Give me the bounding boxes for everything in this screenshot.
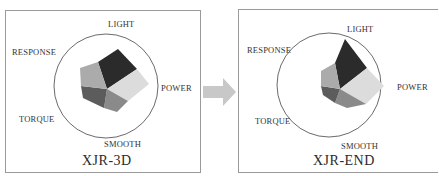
panel-xjr-end: LIGHT RESPONSE POWER TORQUE SMOOTH XJR-E… <box>238 9 438 173</box>
model-name-xjr-3d: XJR-3D <box>82 153 132 169</box>
axis-label-torque: TORQUE <box>19 114 55 124</box>
axis-label-response: RESPONSE <box>247 45 291 55</box>
right-arrow-icon <box>203 78 237 106</box>
axis-label-response: RESPONSE <box>12 47 56 57</box>
axis-label-light: LIGHT <box>108 19 135 29</box>
radar-chart-xjr-end <box>239 10 439 174</box>
axis-label-light: LIGHT <box>347 24 374 34</box>
axis-label-torque: TORQUE <box>255 116 291 126</box>
panel-xjr-3d: LIGHT RESPONSE POWER TORQUE SMOOTH XJR-3… <box>5 10 201 173</box>
axis-label-power: POWER <box>161 83 192 93</box>
axis-label-smooth: SMOOTH <box>104 139 141 149</box>
model-name-xjr-end: XJR-END <box>313 153 375 169</box>
axis-label-power: POWER <box>397 82 428 92</box>
segment-torque <box>81 86 107 108</box>
axis-label-smooth: SMOOTH <box>341 141 378 151</box>
